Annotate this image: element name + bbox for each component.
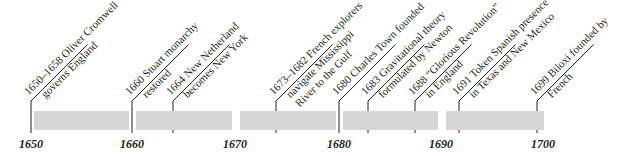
year-label: 1700 xyxy=(531,137,555,152)
bar-segment xyxy=(343,111,438,130)
year-label: 1650 xyxy=(19,137,43,152)
bar-segment xyxy=(240,111,336,130)
bar-segment xyxy=(136,111,232,130)
bar-segment xyxy=(446,111,544,130)
timeline-events: 1650–1658 Oliver Cromwellgoverns England… xyxy=(0,0,632,156)
timeline: 165016601670168016901700 1650–1658 Olive… xyxy=(0,0,632,156)
bar-segment xyxy=(34,111,129,130)
year-label: 1670 xyxy=(223,137,247,152)
year-label: 1680 xyxy=(327,137,351,152)
year-label: 1660 xyxy=(120,137,144,152)
year-label: 1690 xyxy=(429,137,453,152)
